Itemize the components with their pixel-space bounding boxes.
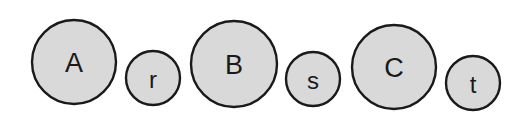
node-c: C xyxy=(352,25,436,109)
node-t: t xyxy=(446,56,500,110)
node-a: A xyxy=(32,20,116,104)
node-label: B xyxy=(225,50,243,80)
node-b: B xyxy=(191,21,277,107)
node-label: t xyxy=(470,71,477,98)
circle-sequence-diagram: A r B s C t xyxy=(0,0,528,114)
node-label: r xyxy=(149,66,157,93)
node-r: r xyxy=(126,51,180,105)
node-label: C xyxy=(384,53,404,83)
node-label: A xyxy=(65,48,83,78)
node-s: s xyxy=(286,52,340,106)
node-label: s xyxy=(307,67,319,94)
